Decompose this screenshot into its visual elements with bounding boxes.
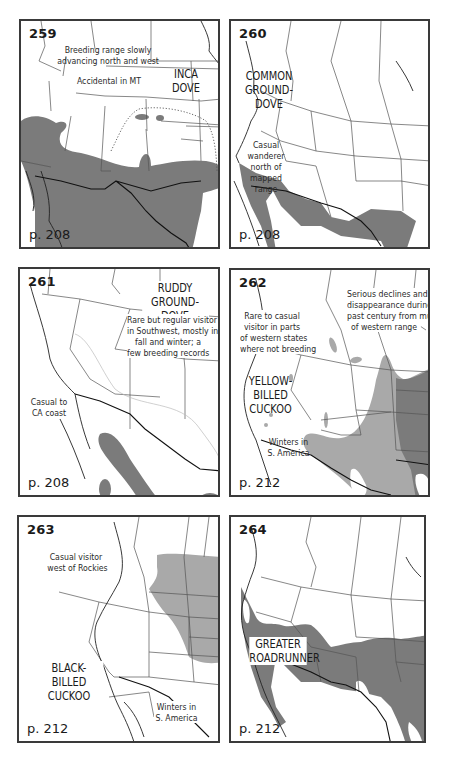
- page-reference: p. 212: [239, 721, 280, 736]
- range-map-263-black-billed-cuckoo: 263 Casual visitor west of Rockies BLACK…: [17, 515, 220, 743]
- species-name: INCA DOVE: [166, 67, 207, 95]
- note-accidental-mt: Accidental in MT: [76, 75, 142, 86]
- species-name: YELLOW- BILLED CUCKOO: [248, 374, 293, 416]
- species-name: BLACK-BILLED CUCKOO: [35, 661, 104, 703]
- species-name: COMMON GROUND-DOVE: [236, 69, 302, 111]
- range-map-260-common-ground-dove: 260 COMMON GROUND-DOVE Casual wanderer n…: [229, 19, 430, 249]
- map-graphic: [231, 21, 430, 249]
- range-map-262-yellow-billed-cuckoo: 262 Serious declines and disappearance d…: [229, 268, 430, 497]
- map-number: 263: [27, 522, 55, 537]
- page-reference: p. 212: [27, 721, 68, 736]
- page-reference: p. 208: [239, 227, 280, 242]
- note-serious-declines: Serious declines and disappearance durin…: [347, 288, 421, 332]
- note-casual-wanderer: Casual wanderer north of mapped range: [237, 139, 294, 194]
- species-name: GREATER ROADRUNNER: [249, 637, 306, 665]
- range-map-261-ruddy-ground-dove: 261 RUDDY GROUND-DOVE Rare but regular v…: [18, 267, 220, 497]
- map-number: 261: [28, 274, 56, 289]
- note-casual-west-of-rockies: Casual visitor west of Rockies: [47, 551, 104, 573]
- range-map-264-greater-roadrunner: 264 GREATER ROADRUNNER p. 212: [229, 515, 426, 743]
- map-number: 259: [29, 26, 57, 41]
- note-winters-s-america: Winters in S. America: [154, 701, 199, 723]
- note-rare-regular-visitor: Rare but regular visitor in Southwest, m…: [127, 314, 209, 358]
- note-casual-ca-coast: Casual to CA coast: [29, 396, 70, 418]
- map-number: 260: [239, 26, 267, 41]
- note-breeding-range: Breeding range slowly advancing north an…: [55, 44, 162, 66]
- map-number: 262: [239, 275, 267, 290]
- page-reference: p. 208: [29, 227, 70, 242]
- note-winters-s-america: Winters in S. America: [266, 436, 311, 458]
- page-reference: p. 208: [28, 475, 69, 490]
- page-reference: p. 212: [239, 475, 280, 490]
- map-graphic: [231, 517, 426, 743]
- note-rare-casual-visitor: Rare to casual visitor in parts of weste…: [240, 310, 304, 354]
- range-map-259-inca-dove: 259 Breeding range slowly advancing nort…: [19, 19, 220, 249]
- map-number: 264: [239, 522, 267, 537]
